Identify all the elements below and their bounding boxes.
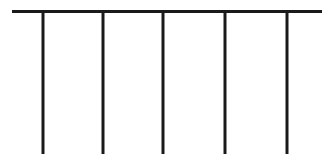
background bbox=[0, 0, 335, 166]
figure-canvas bbox=[0, 0, 335, 166]
fence-diagram bbox=[0, 0, 335, 166]
